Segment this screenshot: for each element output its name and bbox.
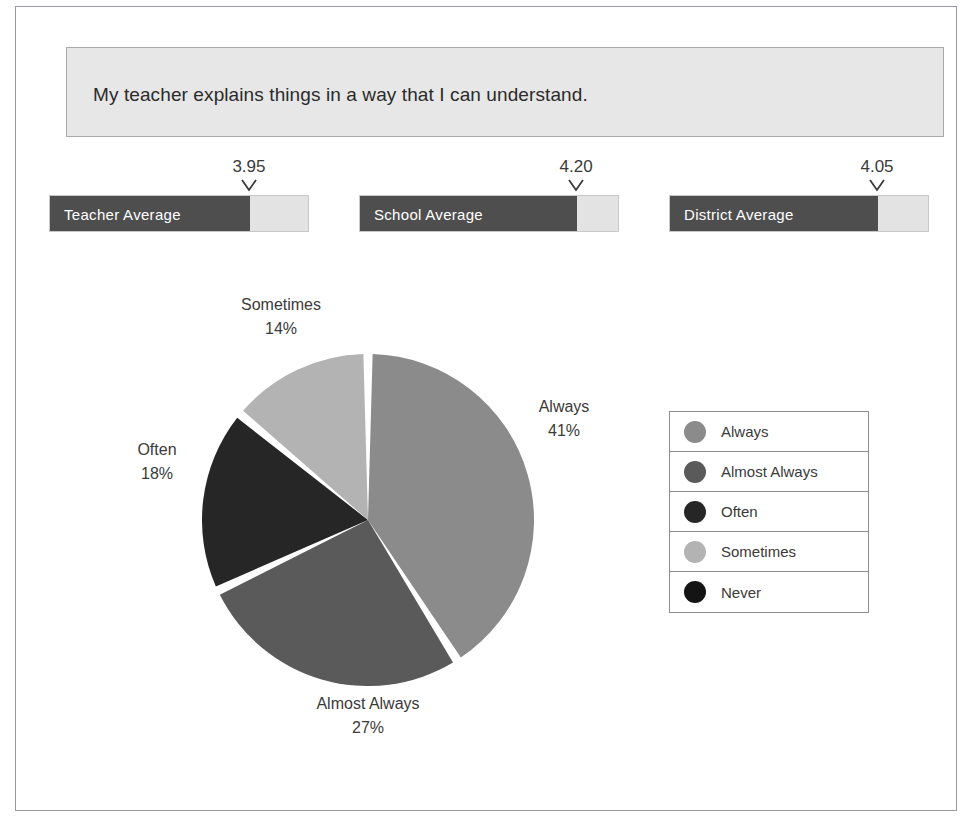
- average-bar-teacher: Teacher Average: [49, 195, 309, 232]
- pie-chart-svg: [202, 354, 534, 686]
- pie-label-always-name: Always: [539, 398, 590, 415]
- legend-label-almost-always: Almost Always: [721, 463, 818, 480]
- average-value-teacher: 3.95: [232, 157, 265, 177]
- legend-swatch-often-icon: [684, 501, 706, 523]
- legend-swatch-sometimes-icon: [684, 541, 706, 563]
- pie-label-always-pct: 41%: [519, 419, 609, 443]
- question-banner: My teacher explains things in a way that…: [66, 47, 944, 137]
- average-label-school: School Average: [374, 205, 483, 222]
- average-label-district: District Average: [684, 205, 794, 222]
- legend-swatch-never-icon: [684, 581, 706, 603]
- pie-label-always: Always 41%: [519, 395, 609, 443]
- pie-label-sometimes-name: Sometimes: [241, 296, 321, 313]
- legend-row[interactable]: Often: [670, 492, 868, 532]
- pie-label-almost-always: Almost Always 27%: [288, 692, 448, 740]
- pie-label-often-name: Often: [137, 441, 176, 458]
- legend-swatch-almost-always-icon: [684, 461, 706, 483]
- question-text: My teacher explains things in a way that…: [93, 84, 588, 106]
- legend-label-always: Always: [721, 423, 769, 440]
- pie-label-sometimes: Sometimes 14%: [221, 293, 341, 341]
- legend-row[interactable]: Never: [670, 572, 868, 612]
- legend-label-often: Often: [721, 503, 758, 520]
- average-group-district: 4.05 District Average: [669, 157, 929, 237]
- average-value-district: 4.05: [860, 157, 893, 177]
- average-value-school: 4.20: [560, 157, 593, 177]
- average-bar-school: School Average: [359, 195, 619, 232]
- legend-label-never: Never: [721, 584, 761, 601]
- average-group-teacher: 3.95 Teacher Average: [49, 157, 309, 237]
- pie-label-often: Often 18%: [117, 438, 197, 486]
- page-frame: My teacher explains things in a way that…: [15, 6, 957, 811]
- legend-row[interactable]: Sometimes: [670, 532, 868, 572]
- pie-label-sometimes-pct: 14%: [221, 317, 341, 341]
- legend-swatch-always-icon: [684, 421, 706, 443]
- average-marker-district: [869, 179, 885, 192]
- average-bar-district: District Average: [669, 195, 929, 232]
- legend-row[interactable]: Always: [670, 412, 868, 452]
- legend-row[interactable]: Almost Always: [670, 452, 868, 492]
- pie-label-almost-always-pct: 27%: [288, 716, 448, 740]
- average-group-school: 4.20 School Average: [359, 157, 619, 237]
- pie-label-almost-always-name: Almost Always: [316, 695, 419, 712]
- pie-label-often-pct: 18%: [117, 462, 197, 486]
- average-marker-teacher: [241, 179, 257, 192]
- average-marker-school: [568, 179, 584, 192]
- average-label-teacher: Teacher Average: [64, 205, 181, 222]
- pie-chart: [202, 354, 534, 686]
- legend-label-sometimes: Sometimes: [721, 543, 796, 560]
- legend: Always Almost Always Often Sometimes Nev…: [669, 411, 869, 613]
